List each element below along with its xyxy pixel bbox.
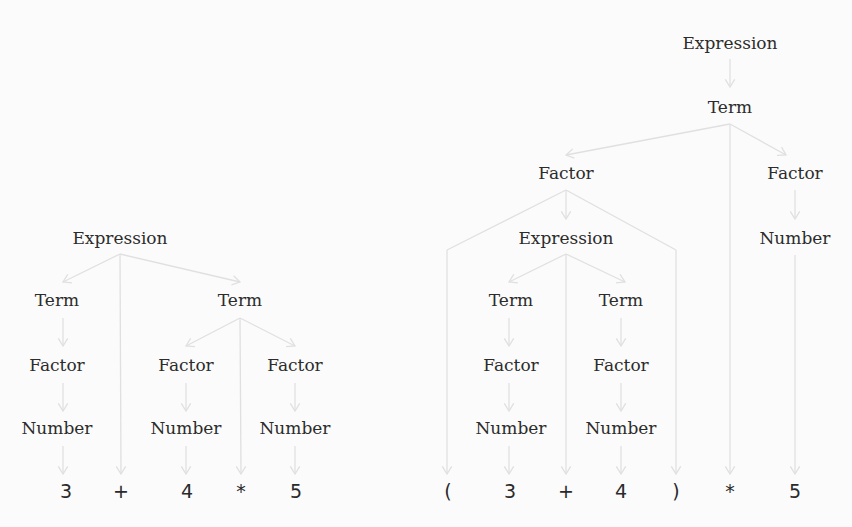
token: 5 (789, 480, 801, 502)
token: 3 (504, 480, 516, 502)
parse-tree-diagram: Expression Term Term Factor Factor Facto… (0, 0, 852, 527)
token: ( (444, 480, 451, 502)
token: + (113, 480, 129, 502)
node-term: Term (218, 290, 262, 310)
right-parse-tree: Expression Term Factor Factor Expression… (444, 33, 831, 502)
labels-layer: Expression Term Term Factor Factor Facto… (0, 0, 852, 527)
node-expression: Expression (72, 228, 167, 248)
token: + (558, 480, 574, 502)
node-factor: Factor (483, 355, 539, 375)
node-expression: Expression (682, 33, 777, 53)
token: 4 (615, 480, 627, 502)
node-factor: Factor (29, 355, 85, 375)
token: * (236, 480, 246, 502)
node-factor: Factor (267, 355, 323, 375)
left-parse-tree: Expression Term Term Factor Factor Facto… (21, 228, 331, 502)
token: 5 (290, 480, 302, 502)
node-factor: Factor (538, 163, 594, 183)
node-number: Number (475, 418, 547, 438)
token: ) (672, 480, 679, 502)
node-expression: Expression (518, 228, 613, 248)
node-number: Number (759, 228, 831, 248)
node-factor: Factor (593, 355, 649, 375)
node-factor: Factor (767, 163, 823, 183)
node-number: Number (21, 418, 93, 438)
node-term: Term (489, 290, 533, 310)
node-factor: Factor (158, 355, 214, 375)
node-number: Number (150, 418, 222, 438)
node-term: Term (599, 290, 643, 310)
node-term: Term (35, 290, 79, 310)
token: 4 (181, 480, 193, 502)
node-term: Term (708, 97, 752, 117)
token: 3 (60, 480, 72, 502)
node-number: Number (585, 418, 657, 438)
token: * (725, 480, 735, 502)
node-number: Number (259, 418, 331, 438)
